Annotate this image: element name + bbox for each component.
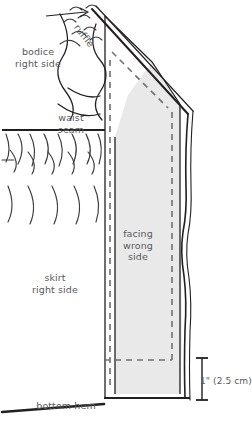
label-skirt: skirt right side [18, 272, 92, 295]
ruffle-pointer-arrow [46, 8, 88, 17]
facing-panel-upper-fill [116, 63, 179, 137]
sewing-diagram-canvas: bodice right side ruffle waist seam skir… [0, 0, 252, 424]
label-dimension: 1" (2.5 cm) [200, 376, 250, 388]
skirt-gather-lines [2, 134, 101, 224]
label-facing: facing wrong side [112, 228, 164, 263]
label-bodice: bodice right side [2, 46, 74, 69]
label-bottom-hem: bottom hem [16, 400, 116, 412]
label-waist-seam: waist seam [44, 112, 98, 135]
